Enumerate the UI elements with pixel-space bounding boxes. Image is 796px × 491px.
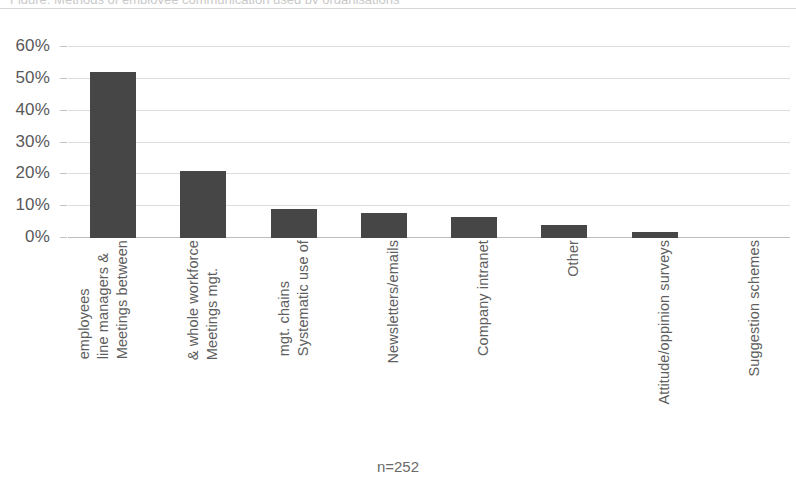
bar[interactable] (541, 225, 587, 238)
x-axis-label-line: mgt. chains (275, 240, 294, 356)
bar[interactable] (632, 232, 678, 238)
y-axis-tick-label: 0% (25, 227, 50, 247)
y-axis-tick (60, 173, 67, 174)
x-axis-label-line: Systematic use of (294, 240, 313, 356)
y-axis-tick (60, 237, 67, 238)
y-axis-tick-label: 60% (15, 36, 50, 56)
x-axis-label-line: Newsletters/emails (384, 240, 403, 363)
y-axis-tick (60, 142, 67, 143)
x-axis-label-line: Meetings mgt. (203, 240, 222, 360)
y-axis-tick-label: 10% (15, 195, 50, 215)
x-axis-label-line: Attitude/oppinion surveys (655, 240, 674, 405)
bar-slot (519, 47, 609, 238)
y-axis-tick (60, 205, 67, 206)
x-axis-label-line: Other (564, 240, 583, 277)
bar[interactable] (271, 209, 317, 238)
x-axis-tick-label: employeesline managers &Meetings between (75, 240, 132, 359)
x-axis-label-line: employees (75, 240, 94, 359)
y-axis-tick (60, 110, 67, 111)
x-axis-label-slot: & whole workforceMeetings mgt. (158, 240, 248, 455)
header-divider (0, 8, 796, 9)
x-axis-tick-label: Other (564, 240, 583, 277)
x-axis-label-slot: Other (519, 240, 609, 455)
y-axis: 60%50%40%30%20%10%0% (0, 46, 60, 237)
bar[interactable] (90, 72, 136, 238)
y-axis-tick-label: 40% (15, 100, 50, 120)
bar-slot (339, 47, 429, 238)
x-axis-tick-label: mgt. chainsSystematic use of (275, 240, 313, 356)
bar-series (68, 46, 790, 238)
x-axis-label-slot: Suggestion schemes (700, 240, 790, 455)
clipped-figure-title: Figure: Methods of employee communicatio… (10, 0, 530, 4)
x-axis-label-line: Company intranet (474, 240, 493, 356)
x-axis-tick-label: Company intranet (474, 240, 493, 356)
x-axis-label-line: line managers & (94, 240, 113, 359)
x-axis-tick-label: Attitude/oppinion surveys (655, 240, 674, 405)
x-axis-label-slot: employeesline managers &Meetings between (68, 240, 158, 455)
bar-chart: 60%50%40%30%20%10%0% employeesline manag… (0, 14, 796, 484)
bar-slot (249, 47, 339, 238)
bar-slot (158, 47, 248, 238)
bar[interactable] (180, 171, 226, 238)
x-axis-tick-label: Suggestion schemes (745, 240, 764, 376)
bar-slot (68, 47, 158, 238)
bar-slot (429, 47, 519, 238)
bar-slot (610, 47, 700, 238)
x-axis-label-line: & whole workforce (184, 240, 203, 360)
x-axis-label-line: Meetings between (113, 240, 132, 359)
bar[interactable] (451, 217, 497, 238)
bar-slot (700, 47, 790, 238)
bar[interactable] (361, 213, 407, 238)
y-axis-tick (60, 78, 67, 79)
x-axis: employeesline managers &Meetings between… (68, 240, 790, 455)
x-axis-label-line: Suggestion schemes (745, 240, 764, 376)
x-axis-tick-label: Newsletters/emails (384, 240, 403, 363)
x-axis-label-slot: Newsletters/emails (339, 240, 429, 455)
sample-size-note: n=252 (0, 458, 796, 475)
x-axis-label-slot: Attitude/oppinion surveys (610, 240, 700, 455)
x-axis-label-slot: Company intranet (429, 240, 519, 455)
y-axis-tick-label: 20% (15, 163, 50, 183)
x-axis-tick-label: & whole workforceMeetings mgt. (184, 240, 222, 360)
y-axis-tick-label: 30% (15, 132, 50, 152)
x-axis-label-slot: mgt. chainsSystematic use of (249, 240, 339, 455)
y-axis-tick (60, 46, 67, 47)
y-axis-tick-label: 50% (15, 68, 50, 88)
